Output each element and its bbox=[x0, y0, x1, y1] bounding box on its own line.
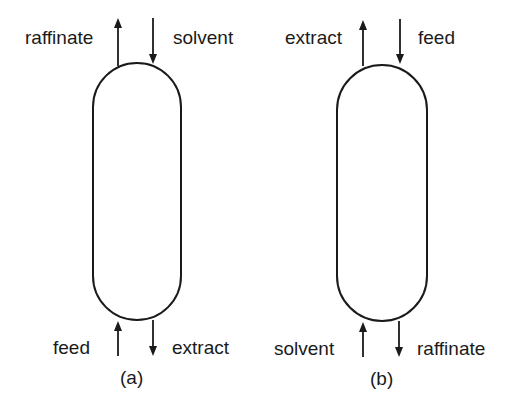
caption-b: (b) bbox=[370, 368, 393, 389]
label-top-right-b: feed bbox=[418, 27, 455, 48]
label-bottom-right-b: raffinate bbox=[417, 338, 485, 359]
arrow-up-icon bbox=[114, 321, 122, 356]
label-bottom-right-a: extract bbox=[172, 337, 230, 358]
column-vessel-b bbox=[337, 65, 427, 321]
caption-a: (a) bbox=[120, 367, 143, 388]
arrow-up-icon bbox=[114, 18, 122, 66]
arrow-down-icon bbox=[395, 321, 403, 357]
label-top-left-b: extract bbox=[285, 27, 343, 48]
extraction-column-diagram: raffinate solvent feed extract (a) extra… bbox=[0, 0, 512, 408]
panel-b: extract feed solvent raffinate (b) bbox=[274, 19, 485, 389]
arrow-up-icon bbox=[359, 322, 367, 357]
label-top-left-a: raffinate bbox=[25, 27, 93, 48]
arrow-down-icon bbox=[149, 18, 157, 64]
label-top-right-a: solvent bbox=[173, 27, 234, 48]
label-bottom-left-a: feed bbox=[53, 337, 90, 358]
panel-a: raffinate solvent feed extract (a) bbox=[25, 18, 234, 388]
arrow-down-icon bbox=[149, 320, 157, 356]
arrow-down-icon bbox=[396, 19, 404, 64]
arrow-up-icon bbox=[359, 20, 367, 66]
column-vessel-a bbox=[93, 63, 181, 320]
label-bottom-left-b: solvent bbox=[274, 338, 335, 359]
